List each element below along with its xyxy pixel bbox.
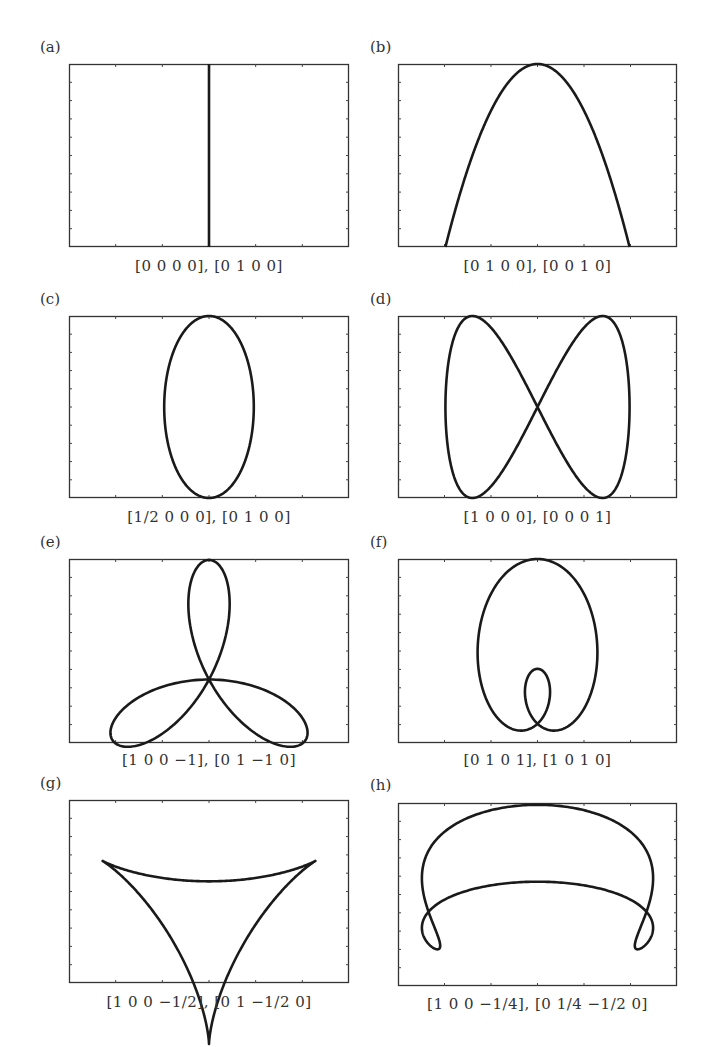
axes-frame [399, 65, 677, 247]
axes-frame [70, 560, 349, 743]
panel-caption: [1 0 0 −1], [0 1 −1 0] [69, 751, 349, 769]
axes-frame [399, 560, 677, 743]
panel-caption: [0 1 0 1], [1 0 1 0] [398, 751, 677, 769]
axis-ticks [398, 64, 677, 247]
axes-frame [70, 801, 349, 983]
panel-label: (h) [370, 776, 391, 794]
axis-ticks [69, 316, 349, 498]
plot-area [69, 559, 349, 743]
curve-line [445, 64, 629, 247]
axis-ticks [398, 559, 677, 743]
plot-area [398, 316, 677, 498]
axis-ticks [69, 559, 349, 743]
plot-area [69, 800, 349, 983]
plot-area [398, 64, 677, 247]
panel-label: (c) [40, 290, 60, 308]
panel-label: (e) [40, 533, 61, 551]
curve-line [478, 559, 598, 731]
panel-caption: [1/2 0 0 0], [0 1 0 0] [69, 508, 349, 526]
curve-line [110, 560, 307, 747]
plot-area [69, 316, 349, 498]
plot-area [69, 64, 349, 247]
panel-caption: [0 1 0 0], [0 0 1 0] [398, 257, 677, 275]
curve-line [445, 316, 629, 498]
axes-frame [399, 804, 677, 986]
plot-area [398, 803, 677, 986]
panel-caption: [1 0 0 0], [0 0 0 1] [398, 508, 677, 526]
axis-ticks [398, 803, 677, 986]
panel-label: (a) [40, 38, 61, 56]
curve-line [103, 861, 316, 1044]
panel-label: (b) [370, 38, 391, 56]
axes-frame [70, 317, 349, 498]
panel-label: (d) [370, 290, 391, 308]
curve-line [164, 316, 254, 498]
panel-caption: [1 0 0 −1/4], [0 1/4 −1/2 0] [398, 995, 677, 1013]
curve-line [422, 805, 653, 950]
panel-caption: [0 0 0 0], [0 1 0 0] [69, 257, 349, 275]
panel-caption: [1 0 0 −1/2], [0 1 −1/2 0] [69, 993, 349, 1011]
panel-label: (f) [370, 533, 387, 551]
plot-area [398, 559, 677, 743]
panel-label: (g) [40, 774, 61, 792]
axis-ticks [69, 800, 349, 983]
